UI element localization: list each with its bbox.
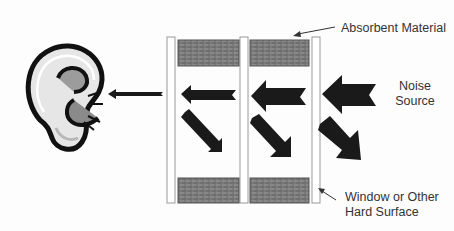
noise-source-line-1: Noise (385, 79, 445, 94)
diagram-canvas: Absorbent Material Noise Source Window o… (0, 0, 454, 231)
absorbent-top-2 (250, 40, 309, 66)
window-pointer (318, 188, 336, 200)
noise-source-label: Noise Source (385, 79, 445, 109)
window-surface-line-1: Window or Other (345, 190, 439, 205)
arrow-down-right-icon (250, 114, 291, 157)
arrow-left-icon (251, 80, 306, 112)
window-panel-2 (240, 37, 248, 203)
ear-icon (28, 46, 103, 149)
absorbent-material-label: Absorbent Material (341, 21, 446, 36)
arrow-down-right-icon (181, 109, 222, 152)
arrow-down-right-icon (318, 116, 361, 160)
arrow-left-icon (108, 89, 163, 99)
absorbent-bottom-2 (250, 178, 309, 203)
window-surface-line-2: Hard Surface (345, 205, 439, 220)
window-panel-1 (167, 37, 175, 203)
noise-source-line-2: Source (385, 94, 445, 109)
absorbent-pointer (293, 27, 335, 37)
absorbent-bottom-1 (178, 178, 239, 203)
absorbent-top-1 (178, 40, 239, 66)
arrow-left-icon (322, 75, 376, 114)
window-panel-3 (312, 37, 320, 203)
arrow-left-icon (181, 85, 236, 104)
window-surface-label: Window or Other Hard Surface (345, 190, 439, 220)
